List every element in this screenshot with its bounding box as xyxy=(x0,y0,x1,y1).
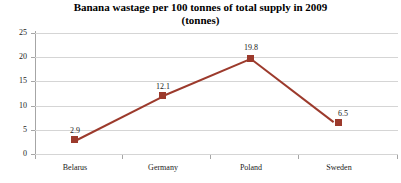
data-point-belarus[interactable] xyxy=(71,136,78,143)
x-tick-2 xyxy=(210,155,211,159)
line-chart: Banana wastage per 100 tonnes of total s… xyxy=(0,0,401,183)
x-axis-label-sweden: Sweden xyxy=(299,163,379,172)
y-axis-label-25: 25 xyxy=(0,29,27,37)
x-axis-label-germany: Germany xyxy=(123,163,203,172)
x-tick-1 xyxy=(122,155,123,159)
chart-title: Banana wastage per 100 tonnes of total s… xyxy=(0,1,401,27)
data-label-belarus: 2.9 xyxy=(56,126,94,135)
series-segment-germany-poland xyxy=(163,58,252,97)
x-tick-4 xyxy=(397,155,398,159)
y-axis-label-20: 20 xyxy=(0,53,27,61)
y-tick-20 xyxy=(31,57,35,58)
y-tick-25 xyxy=(31,33,35,34)
gridline-25 xyxy=(35,33,398,34)
data-label-germany: 12.1 xyxy=(144,82,182,91)
y-tick-10 xyxy=(31,106,35,107)
y-axis-label-10: 10 xyxy=(0,102,27,110)
gridline-15 xyxy=(35,81,398,82)
y-tick-5 xyxy=(31,130,35,131)
gridline-10 xyxy=(35,106,398,107)
plot-area: 2.9 12.1 19.8 6.5 xyxy=(35,33,398,154)
y-tick-15 xyxy=(31,81,35,82)
data-label-poland: 19.8 xyxy=(232,43,270,52)
x-axis-label-poland: Poland xyxy=(211,163,291,172)
x-axis-label-belarus: Belarus xyxy=(35,163,115,172)
x-axis-line xyxy=(35,154,398,155)
chart-title-line-2: (tonnes) xyxy=(0,14,401,27)
x-tick-0 xyxy=(35,155,36,159)
data-point-germany[interactable] xyxy=(159,92,166,99)
data-point-poland[interactable] xyxy=(247,55,254,62)
gridline-20 xyxy=(35,57,398,58)
y-axis-label-15: 15 xyxy=(0,77,27,85)
series-segment-poland-sweden xyxy=(250,58,334,123)
y-axis-label-5: 5 xyxy=(0,126,27,134)
chart-title-line-1: Banana wastage per 100 tonnes of total s… xyxy=(0,1,401,14)
x-tick-3 xyxy=(298,155,299,159)
data-label-sweden: 6.5 xyxy=(324,109,362,118)
data-point-sweden[interactable] xyxy=(335,119,342,126)
y-axis-label-0: 0 xyxy=(0,150,27,158)
